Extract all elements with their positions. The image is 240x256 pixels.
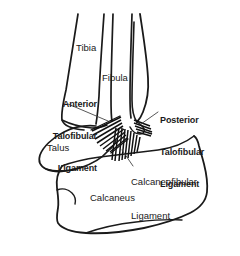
ligament-label-anterior-talofibular: Anterior Talofibular Ligament bbox=[12, 78, 97, 184]
ligament-label-line-1: Posterior bbox=[160, 115, 238, 126]
ligament-label-line-3: Ligament bbox=[12, 163, 97, 174]
ligament-label-line-2: Ligament bbox=[131, 210, 236, 221]
ligament-label-line-2: Talofibular bbox=[12, 131, 97, 142]
ligament-label-line-1: Anterior bbox=[12, 99, 97, 110]
ligament-label-line-1: Calcaneofibular bbox=[131, 176, 236, 187]
bone-label-tibia: Tibia bbox=[76, 42, 96, 53]
bone-label-fibula: Fibula bbox=[102, 72, 128, 83]
ligament-label-calcaneofibular: Calcaneofibular Ligament bbox=[131, 154, 236, 232]
bone-label-calcaneus: Calcaneus bbox=[90, 192, 135, 203]
